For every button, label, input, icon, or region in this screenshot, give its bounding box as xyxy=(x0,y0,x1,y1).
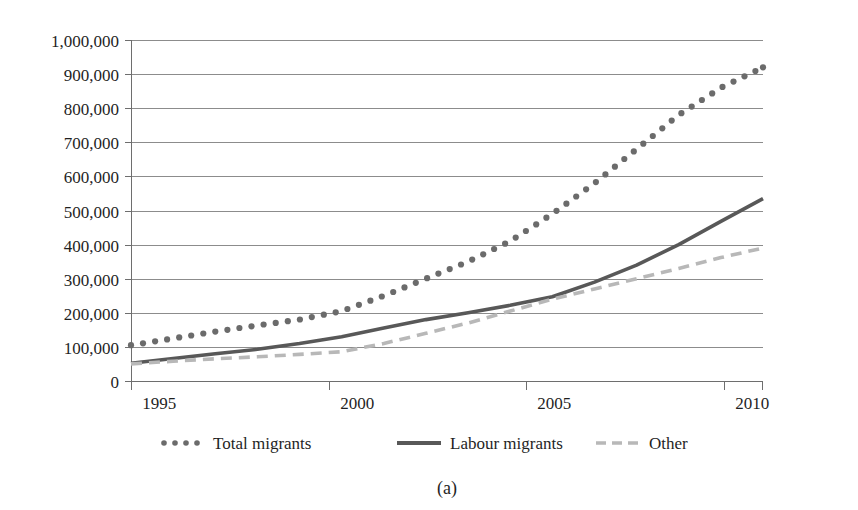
legend-swatch-dotted xyxy=(161,440,167,446)
y-axis-tick-label: 600,000 xyxy=(64,168,119,187)
x-axis-tick-label: 2000 xyxy=(340,394,374,413)
data-point-marker xyxy=(128,342,134,348)
data-point-marker xyxy=(513,235,519,241)
data-point-marker xyxy=(321,312,327,318)
x-axis-tick-label: 2005 xyxy=(537,394,571,413)
legend-swatch-dotted xyxy=(183,440,189,446)
data-point-marker xyxy=(621,156,627,162)
data-point-marker xyxy=(458,261,464,267)
data-point-marker xyxy=(689,104,695,110)
data-point-marker xyxy=(188,332,194,338)
data-point-marker xyxy=(533,221,539,227)
data-point-marker xyxy=(491,246,497,252)
data-point-marker xyxy=(285,318,291,324)
data-point-marker xyxy=(730,79,736,85)
data-point-marker xyxy=(224,327,230,333)
data-point-marker xyxy=(273,320,279,326)
line-chart: 0100,000200,000300,000400,000500,000600,… xyxy=(0,0,858,510)
y-axis-tick-label: 900,000 xyxy=(64,66,119,85)
data-point-marker xyxy=(640,141,646,147)
y-axis-tick-label: 400,000 xyxy=(64,237,119,256)
data-point-marker xyxy=(164,336,170,342)
legend-label: Other xyxy=(649,434,688,453)
data-point-marker xyxy=(140,340,146,346)
y-axis-tick-label: 0 xyxy=(111,373,120,392)
data-point-marker xyxy=(152,338,158,344)
data-point-marker xyxy=(602,171,608,177)
x-axis-tick-label: 1995 xyxy=(142,394,176,413)
chart-background xyxy=(0,0,858,510)
data-point-marker xyxy=(741,73,747,79)
data-point-marker xyxy=(523,228,529,234)
data-point-marker xyxy=(356,302,362,308)
y-axis-tick-label: 200,000 xyxy=(64,305,119,324)
data-point-marker xyxy=(543,215,549,221)
data-point-marker xyxy=(650,133,656,139)
data-point-marker xyxy=(447,266,453,272)
data-point-marker xyxy=(469,257,475,263)
data-point-marker xyxy=(631,148,637,154)
data-point-marker xyxy=(200,330,206,336)
data-point-marker xyxy=(435,271,441,277)
data-point-marker xyxy=(401,284,407,290)
legend-label: Labour migrants xyxy=(450,434,563,453)
data-point-marker xyxy=(236,325,242,331)
data-point-marker xyxy=(719,84,725,90)
legend-swatch-dotted xyxy=(172,440,178,446)
legend-swatch-dotted xyxy=(194,440,200,446)
data-point-marker xyxy=(678,110,684,116)
y-axis-tick-label: 300,000 xyxy=(64,271,119,290)
data-point-marker xyxy=(176,334,182,340)
data-point-marker xyxy=(612,164,618,170)
data-point-marker xyxy=(261,321,267,327)
data-point-marker xyxy=(752,68,758,74)
data-point-marker xyxy=(480,251,486,257)
data-point-marker xyxy=(212,329,218,335)
data-point-marker xyxy=(333,309,339,315)
data-point-marker xyxy=(413,280,419,286)
data-point-marker xyxy=(760,64,766,70)
data-point-marker xyxy=(573,193,579,199)
legend-label: Total migrants xyxy=(213,434,311,453)
data-point-marker xyxy=(344,306,350,312)
y-axis-tick-label: 100,000 xyxy=(64,339,119,358)
data-point-marker xyxy=(424,275,430,281)
data-point-marker xyxy=(563,201,569,207)
figure-caption: (a) xyxy=(437,478,457,499)
data-point-marker xyxy=(583,186,589,192)
y-axis-tick-label: 700,000 xyxy=(64,134,119,153)
data-point-marker xyxy=(502,241,508,247)
y-axis-tick-label: 500,000 xyxy=(64,203,119,222)
data-point-marker xyxy=(379,293,385,299)
data-point-marker xyxy=(390,289,396,295)
data-point-marker xyxy=(669,118,675,124)
data-point-marker xyxy=(297,316,303,322)
data-point-marker xyxy=(699,97,705,103)
x-axis-tick-label: 2010 xyxy=(735,394,769,413)
data-point-marker xyxy=(367,298,373,304)
data-point-marker xyxy=(553,208,559,214)
data-point-marker xyxy=(593,179,599,185)
data-point-marker xyxy=(659,125,665,131)
data-point-marker xyxy=(709,90,715,96)
data-point-marker xyxy=(309,314,315,320)
y-axis-tick-label: 800,000 xyxy=(64,100,119,119)
figure-container: 0100,000200,000300,000400,000500,000600,… xyxy=(0,0,858,510)
y-axis-tick-label: 1,000,000 xyxy=(51,32,119,51)
data-point-marker xyxy=(248,323,254,329)
